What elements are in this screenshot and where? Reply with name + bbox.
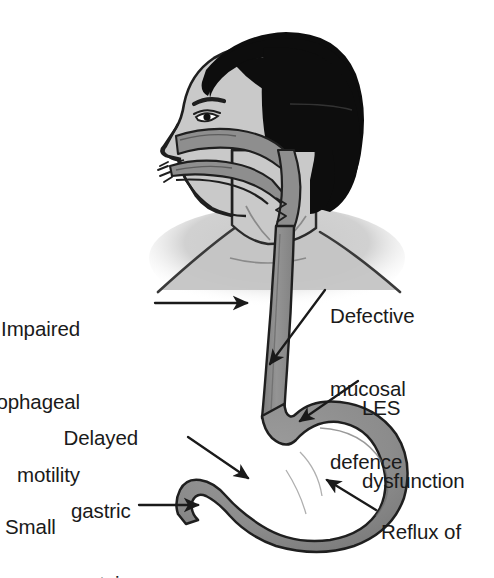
label-line: Reflux of: [381, 520, 461, 544]
label-reflux-of-gastric-contents: Reflux of gastric contents: [381, 472, 461, 578]
leader-delayed-gastric-emptying: [188, 437, 248, 478]
gerd-pathophysiology-diagram: Impaired oesophageal motility Defective …: [0, 0, 494, 578]
label-line: Small: [0, 515, 85, 539]
label-line: Delayed: [60, 426, 142, 450]
label-line: Impaired: [0, 317, 80, 341]
label-small-intestine-reflux-of-bile: Small intestine reflux of bile: [0, 467, 85, 578]
label-line: LES: [362, 396, 465, 420]
label-line: Defective: [330, 304, 415, 328]
